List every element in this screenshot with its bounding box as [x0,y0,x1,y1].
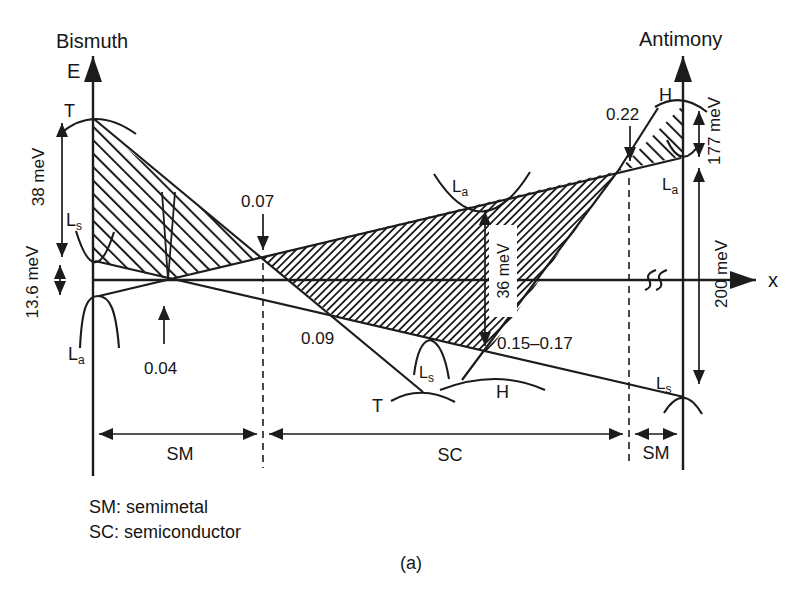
label-0p15-0p17: 0.15–0.17 [497,334,573,353]
energy-axis-label: E [67,60,80,82]
sc-t-cap [391,393,455,402]
sc-h-label: H [496,382,509,402]
sc-t-label: T [372,396,383,416]
title-antimony: Antimony [639,28,722,50]
label-177mev: 177 meV [705,96,724,165]
bi-la-label: La [68,344,85,367]
title-bismuth: Bismuth [56,30,128,52]
label-0p09: 0.09 [301,329,334,348]
bi-ls-label: Ls [66,210,82,233]
label-0p04: 0.04 [144,359,177,378]
figure-caption: (a) [400,553,422,573]
legend-sm: SM: semimetal [89,497,208,517]
legend-sc: SC: semiconductor [89,522,241,542]
label-38mev: 38 meV [29,147,48,206]
region-sm-left-label: SM [167,444,194,464]
sc-ls-label: Ls [419,364,434,385]
bi-semimetal-overlap-hatch [93,122,261,279]
label-13p6mev: 13.6 meV [23,245,42,318]
bi-la-cap [80,296,119,348]
sc-h-cap [440,379,545,390]
sc-gap-hatch [261,171,618,352]
x-axis-label: x [768,269,778,291]
diagram-canvas: Bismuth Antimony E x T Ls La 38 meV 13.6… [0,0,805,612]
label-36mev: 36 meV [495,243,512,298]
sc-la-label: La [452,177,468,199]
sb-ls-label: Ls [656,374,671,396]
bi-t-label: T [64,101,75,121]
region-sm-right-label: SM [643,443,670,463]
band-diagram-figure: Bismuth Antimony E x T Ls La 38 meV 13.6… [0,0,805,612]
sb-h-label: H [659,85,672,105]
sb-la-label: La [662,175,678,197]
label-0p07: 0.07 [241,192,274,211]
label-200mev: 200 meV [712,239,731,308]
label-0p22: 0.22 [606,105,639,124]
region-sc-label: SC [437,445,462,465]
